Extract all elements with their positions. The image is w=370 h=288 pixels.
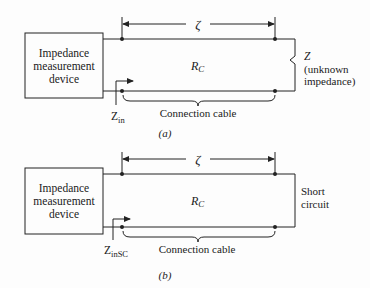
- terminal-dot-b: [120, 225, 124, 229]
- caption-a: (a): [159, 127, 172, 140]
- diagram-canvas: Impedance measurement device ζ RC Z (unk…: [0, 0, 370, 288]
- cable-brace-b: [123, 231, 275, 242]
- cable-label-b: Connection cable: [159, 243, 236, 255]
- input-impedance-label-b: ZinSC: [104, 244, 128, 259]
- input-impedance-label-a: Zin: [111, 110, 125, 125]
- figure-b: Impedance measurement device ζ RC Short …: [25, 152, 329, 282]
- impedance-zigzag-icon: [290, 39, 295, 91]
- cable-resistance-b: RC: [190, 194, 205, 209]
- cable-label-a: Connection cable: [160, 107, 237, 119]
- device-label-line1-b: Impedance: [39, 182, 89, 195]
- load-symbol-a: Z: [304, 50, 311, 62]
- device-label-line3-b: device: [49, 208, 79, 220]
- cable-brace-a: [123, 95, 275, 106]
- length-symbol-a: ζ: [195, 17, 201, 32]
- terminal-dot-a: [120, 89, 124, 93]
- length-dimension-a: ζ: [122, 17, 275, 39]
- load-label-line1-b: Short: [301, 185, 325, 197]
- terminal-dot-b: [273, 225, 277, 229]
- device-label-line1-a: Impedance: [39, 47, 89, 60]
- caption-b: (b): [159, 269, 172, 282]
- figure-a: Impedance measurement device ζ RC Z (unk…: [25, 17, 356, 140]
- load-label-line2-a: impedance): [304, 75, 356, 88]
- load-label-line2-b: circuit: [301, 198, 329, 210]
- device-label-line2-a: measurement: [33, 60, 95, 72]
- length-symbol-b: ζ: [195, 152, 201, 167]
- terminal-dot-a: [273, 89, 277, 93]
- length-dimension-b: ζ: [122, 152, 275, 174]
- device-label-line3-a: device: [49, 73, 79, 85]
- cable-resistance-a: RC: [190, 59, 205, 74]
- device-label-line2-b: measurement: [33, 195, 95, 207]
